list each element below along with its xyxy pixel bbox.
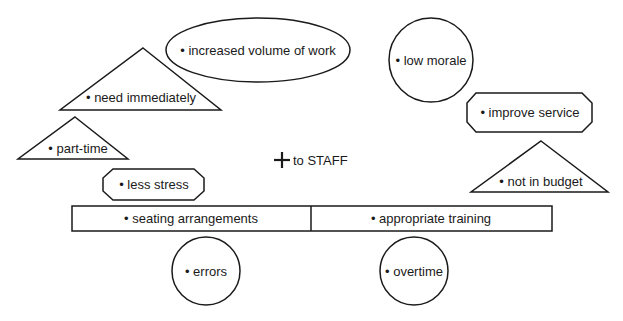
node-part-time: • part-time — [18, 117, 128, 159]
node-label: • increased volume of work — [180, 43, 336, 58]
node-label: • less stress — [119, 177, 189, 192]
node-improve-service: • improve service — [467, 93, 592, 132]
node-label: • errors — [185, 264, 228, 279]
node-less-stress: • less stress — [103, 169, 204, 200]
node-label-seating: • seating arrangements — [124, 211, 258, 226]
staff-diagram: • increased volume of work • low morale … — [0, 0, 623, 321]
node-rectangle-pair: • seating arrangements • appropriate tra… — [72, 206, 552, 231]
node-label: • overtime — [385, 264, 443, 279]
node-label-training: • appropriate training — [371, 211, 491, 226]
node-label: • not in budget — [499, 174, 583, 189]
node-label: • improve service — [480, 105, 579, 120]
node-label: • part-time — [48, 141, 107, 156]
node-overtime: • overtime — [380, 237, 448, 305]
plus-icon — [274, 152, 290, 168]
node-label: • low morale — [395, 53, 466, 68]
node-low-morale: • low morale — [389, 18, 473, 102]
center-label: to STAFF — [274, 152, 348, 168]
node-errors: • errors — [172, 237, 240, 305]
node-label: • need immediately — [86, 90, 197, 105]
center-text: to STAFF — [293, 153, 348, 168]
node-not-in-budget: • not in budget — [471, 141, 608, 192]
node-increased-volume: • increased volume of work — [166, 18, 350, 82]
